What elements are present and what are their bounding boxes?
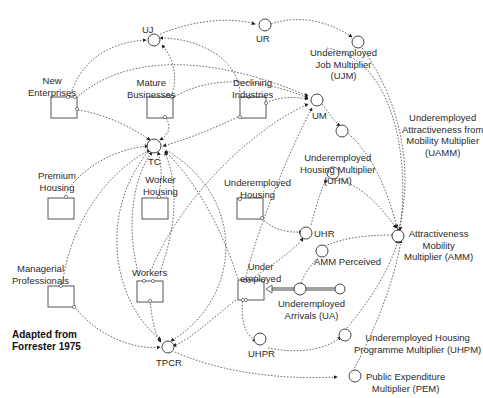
aux-uhpm[interactable] (339, 329, 351, 341)
link-ur-ujm (271, 20, 352, 37)
link-workers-tpcr (150, 300, 161, 342)
stock-new-enterprises[interactable] (51, 97, 77, 118)
link-declining-tc (163, 117, 238, 146)
label-worker-housing: Worker Housing (143, 174, 178, 197)
link-uhpm-amm (347, 240, 398, 328)
aux-tc[interactable] (147, 139, 161, 153)
aux-pem[interactable] (349, 370, 361, 382)
stock-workers[interactable] (137, 281, 163, 302)
link-new-enterprises-um (76, 65, 308, 98)
aux-uhpr[interactable] (254, 333, 266, 345)
stock-declining-industries[interactable] (240, 97, 266, 118)
link-underemployed-tpcr (173, 300, 236, 346)
link-underemployed-tc (165, 151, 240, 285)
label-managerial-professionals: Managerial Professionals (12, 263, 69, 286)
label-pem: Public Expenditure Multiplier (PEM) (366, 371, 445, 394)
aux-uhr[interactable] (300, 227, 312, 239)
aux-um[interactable] (311, 94, 323, 106)
label-uamm: Underemployed Attractiveness from Mobili… (402, 112, 483, 158)
link-mature-tc (160, 118, 169, 140)
label-amm: Attractiveness Mobility Multiplier (AMM) (404, 228, 473, 263)
label-tc: TC (148, 156, 161, 168)
annotation-source: Adapted from Forrester 1975 (12, 329, 81, 353)
label-declining-industries: Declining Industries (232, 77, 273, 100)
link-premium-housing-tc (66, 146, 148, 193)
label-uhr: UHR (314, 228, 335, 240)
label-new-enterprises: New Enterprises (28, 75, 76, 98)
stock-underemployed-housing[interactable] (237, 198, 263, 219)
aux-tpcr[interactable] (162, 341, 174, 353)
stock-mature-businesses[interactable] (147, 97, 173, 118)
label-premium-housing: Premium Housing (38, 170, 76, 193)
label-underemployed: Under employed (240, 261, 281, 284)
label-ua: Underemployed Arrivals (UA) (278, 298, 345, 321)
stock-premium-housing[interactable] (48, 198, 74, 219)
link-uhpr-uhpm (268, 337, 341, 351)
link-underemployed-housing-uhr (262, 218, 302, 232)
aux-uhm-node[interactable] (336, 125, 348, 137)
label-uhpm: Underemployed Housing Programme Multipli… (354, 332, 481, 355)
link-uj-ur (160, 20, 255, 34)
aux-amm[interactable] (392, 230, 404, 242)
label-amm-perceived: AMM Perceived (314, 256, 381, 268)
aux-uj[interactable] (148, 34, 160, 46)
stock-managerial-professionals[interactable] (48, 286, 74, 307)
label-mature-businesses: Mature Businesses (127, 77, 176, 100)
link-uhr-uhm (311, 180, 327, 225)
aux-ua-valve[interactable] (294, 283, 306, 295)
aux-ur[interactable] (259, 19, 271, 31)
link-underemployed-uhpr (242, 298, 256, 341)
label-um: UM (312, 110, 327, 122)
cloud-source-icon (335, 284, 345, 294)
label-uj: UJ (142, 24, 154, 36)
link-new-enterprises-tc (78, 110, 150, 140)
label-workers: Workers (132, 267, 167, 279)
label-tpcr: TPCR (156, 357, 182, 369)
label-ur: UR (256, 33, 270, 45)
label-ujm: Underemployed Job Multiplier (UJM) (310, 47, 377, 82)
label-underemployed-housing: Underemployed Housing (224, 177, 291, 200)
label-uhpr: UHPR (248, 348, 275, 360)
label-uhm: Underemployed Housing Multiplier (UHM) (300, 152, 376, 187)
stock-worker-housing[interactable] (142, 198, 168, 219)
